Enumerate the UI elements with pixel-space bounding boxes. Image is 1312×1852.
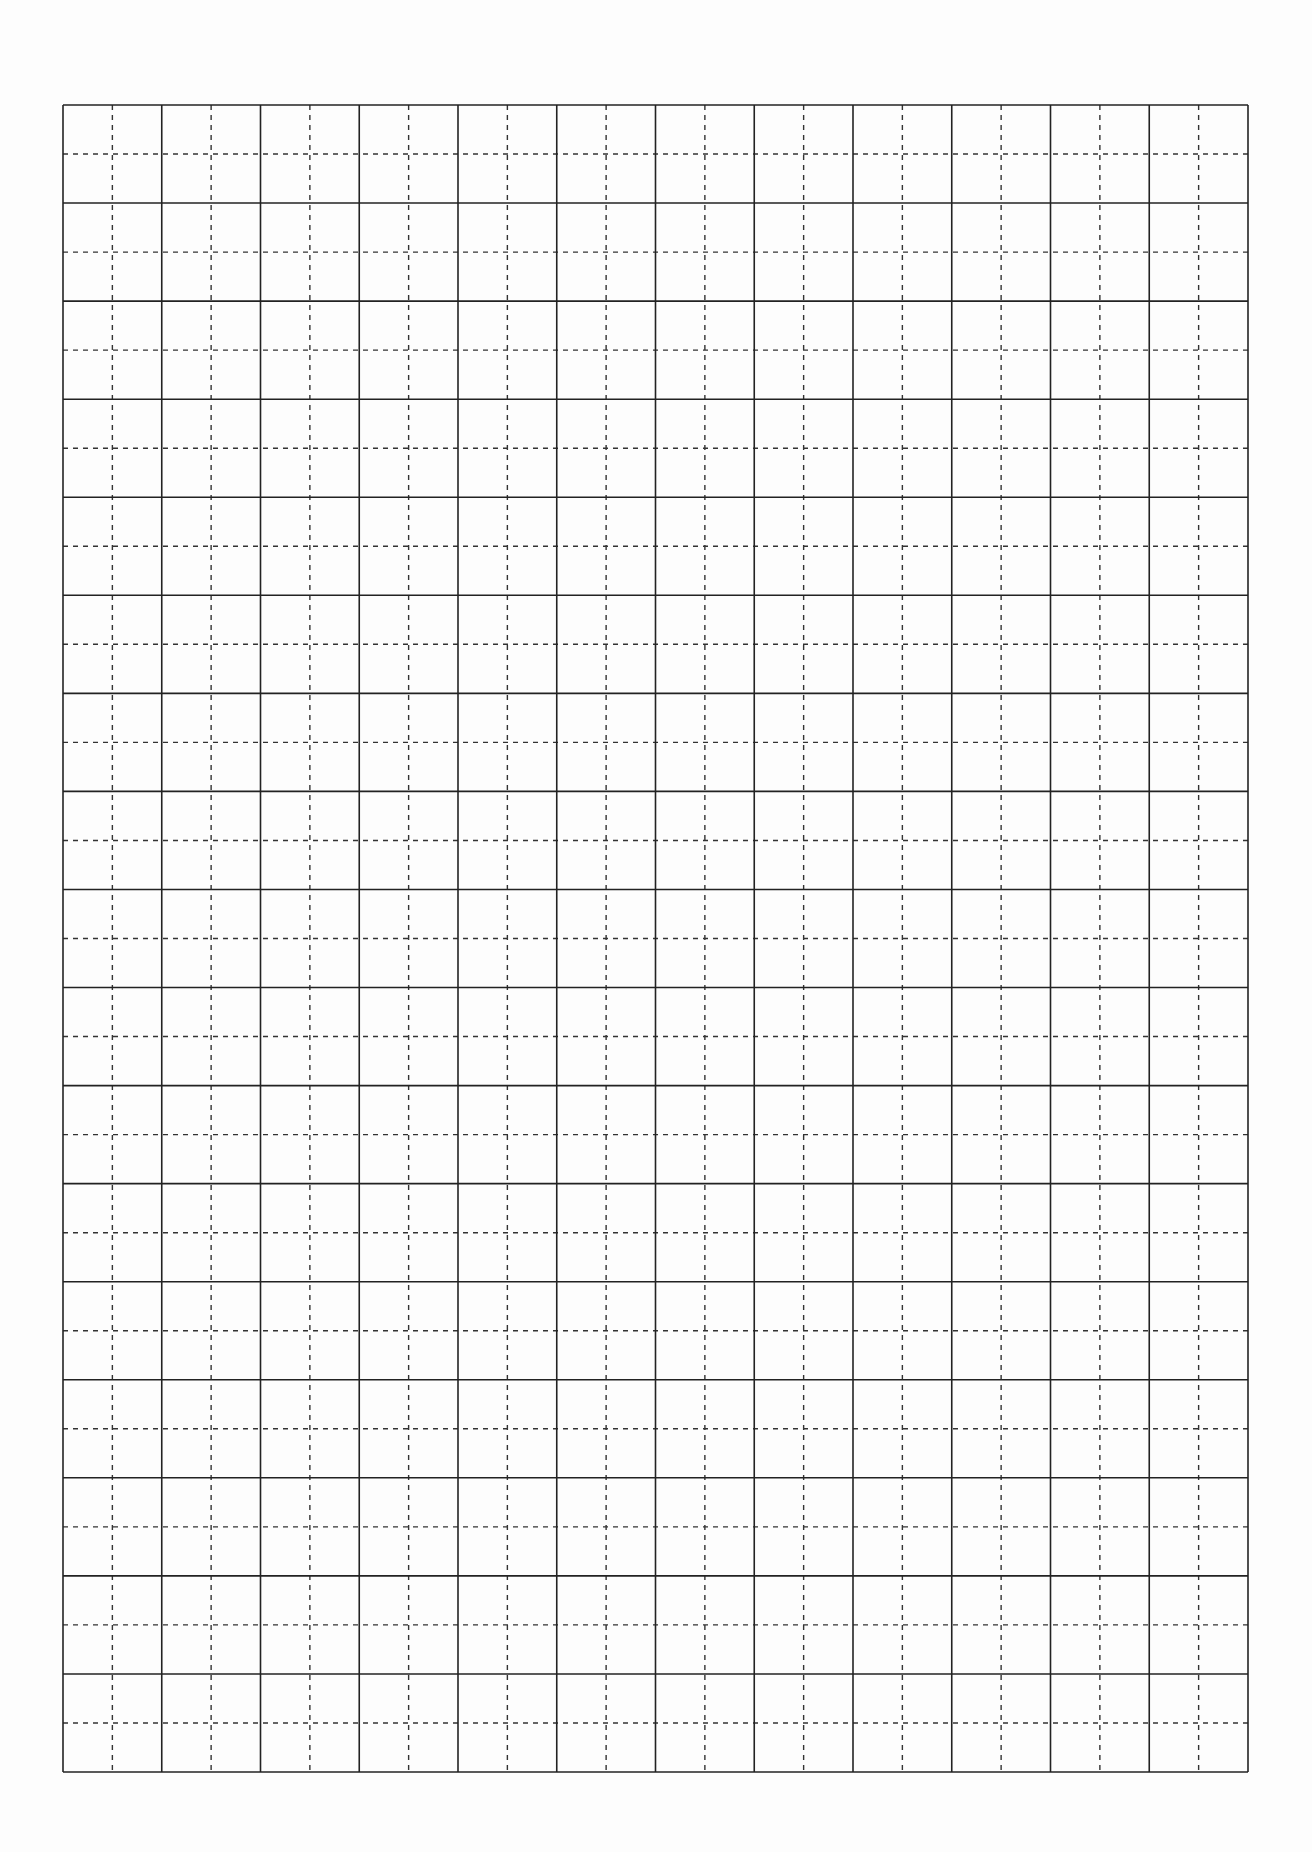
tianzige-grid [63, 105, 1248, 1772]
writing-grid-sheet [63, 105, 1248, 1772]
